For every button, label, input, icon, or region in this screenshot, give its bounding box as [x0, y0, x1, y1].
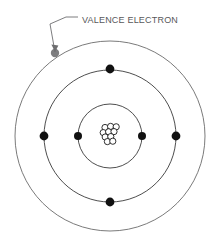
electron-shell2-left [40, 132, 49, 141]
electron-shell1-right [138, 132, 146, 140]
electron-shell2-top [106, 65, 115, 74]
bohr-atom-diagram: VALENCE ELECTRON [0, 0, 214, 247]
electron-shell2-right [172, 132, 181, 141]
electron-shell1-left [74, 132, 82, 140]
valence-electron-label: VALENCE ELECTRON [82, 15, 178, 25]
electron-shell2-bottom [106, 198, 115, 207]
valence-callout-leader [50, 17, 78, 52]
atom-diagram-canvas: VALENCE ELECTRON [0, 0, 214, 247]
nucleus [100, 123, 119, 144]
nucleon-10 [110, 138, 116, 144]
